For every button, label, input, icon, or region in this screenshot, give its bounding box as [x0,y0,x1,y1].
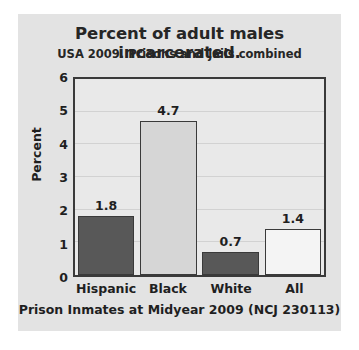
chart-subtitle: USA 2009. Prisons and jails combined [18,47,341,61]
bar-value-label: 1.8 [79,198,133,213]
chart-card: Percent of adult males incarcerated. USA… [18,14,341,331]
x-axis-category-labels: HispanicBlackWhiteAll [73,281,326,296]
y-axis-tick-label: 1 [46,236,68,251]
y-axis-tick-label: 0 [46,270,68,285]
x-axis-label-black: Black [139,281,196,296]
x-axis-caption: Prison Inmates at Midyear 2009 (NCJ 2301… [18,302,341,317]
y-axis-tick-label: 4 [46,136,68,151]
bar-value-label: 0.7 [203,234,257,249]
y-axis-tick-label: 6 [46,70,68,85]
bar-slot: 4.7 [140,79,196,275]
plot-area: 1.84.70.71.4 [73,77,326,277]
bar-white: 0.7 [202,252,258,275]
bar-value-label: 1.4 [266,211,320,226]
y-axis-tick-label: 2 [46,203,68,218]
x-axis-label-all: All [266,281,323,296]
bar-hispanic: 1.8 [78,216,134,275]
x-axis-label-white: White [202,281,259,296]
x-axis-label-hispanic: Hispanic [76,281,133,296]
y-axis-tick-label: 5 [46,103,68,118]
bar-all: 1.4 [265,229,321,275]
bar-value-label: 4.7 [141,103,195,118]
bar-black: 4.7 [140,121,196,275]
bar-slot: 1.4 [265,79,321,275]
y-axis-tick-label: 3 [46,170,68,185]
bars-layer: 1.84.70.71.4 [75,79,324,275]
y-axis-ticks: 0123456 [42,77,68,277]
bar-slot: 1.8 [78,79,134,275]
bar-slot: 0.7 [202,79,258,275]
